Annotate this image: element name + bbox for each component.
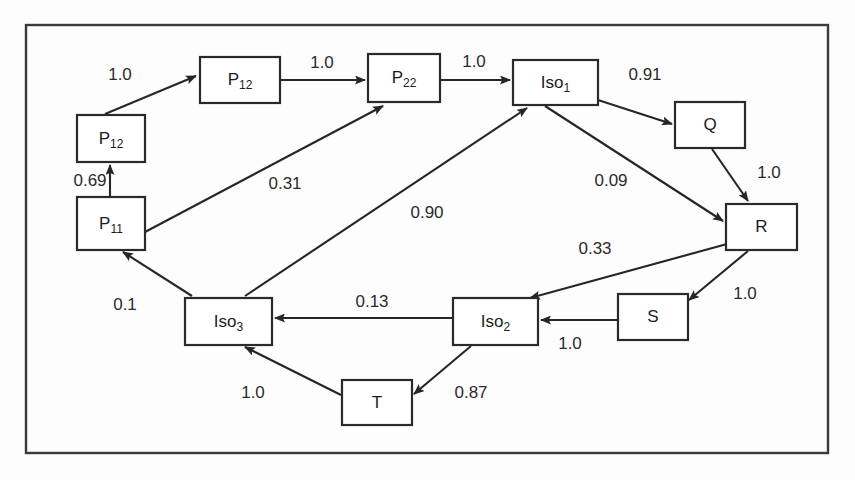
node-label: S [647, 307, 658, 326]
node-label: R [755, 217, 767, 236]
edge-p11-to-p22 [145, 106, 383, 232]
edge-weight-label: 0.90 [410, 203, 443, 222]
edge-weight-label: 0.33 [578, 239, 611, 258]
nodes-layer: P12P12P11P22Iso1QRSIso2Iso3T [77, 54, 797, 425]
node-r[interactable]: R [726, 204, 797, 250]
node-label: T [372, 393, 382, 412]
node-iso3[interactable]: Iso3 [185, 298, 272, 345]
edge-weight-label: 1.0 [757, 163, 781, 182]
node-p12_top[interactable]: P12 [200, 57, 280, 103]
edge-weight-label: 0.09 [594, 171, 627, 190]
edge-iso3-to-iso1 [245, 108, 527, 296]
diagram-canvas: P12P12P11P22Iso1QRSIso2Iso3T 1.01.01.00.… [0, 0, 855, 480]
node-q[interactable]: Q [675, 102, 745, 148]
edge-r-to-iso2 [530, 244, 727, 298]
node-p11[interactable]: P11 [77, 197, 145, 250]
edge-weight-label: 0.13 [355, 292, 388, 311]
edge-weight-label: 0.87 [454, 383, 487, 402]
node-label: Q [703, 115, 716, 134]
edge-weight-label: 0.91 [628, 65, 661, 84]
node-p12_left[interactable]: P12 [77, 115, 145, 162]
edge-weight-label: 1.0 [108, 65, 132, 84]
node-iso1[interactable]: Iso1 [513, 60, 598, 105]
node-t[interactable]: T [342, 380, 412, 425]
node-p22[interactable]: P22 [368, 54, 440, 102]
edge-weight-label: 0.1 [113, 295, 137, 314]
edges-layer [105, 76, 748, 395]
edge-weight-label: 1.0 [310, 53, 334, 72]
edge-q-to-r [712, 149, 748, 201]
node-s[interactable]: S [618, 294, 688, 340]
edge-weight-label: 1.0 [241, 383, 265, 402]
edge-weight-label: 1.0 [462, 52, 486, 71]
edge-weight-label: 0.69 [73, 171, 106, 190]
edge-weight-label: 1.0 [733, 284, 757, 303]
state-transition-diagram: P12P12P11P22Iso1QRSIso2Iso3T 1.01.01.00.… [0, 0, 855, 480]
node-iso2[interactable]: Iso2 [453, 298, 538, 345]
edge-weight-label: 1.0 [558, 334, 582, 353]
edge-weight-label: 0.31 [268, 174, 301, 193]
edge-iso3-to-p11 [123, 252, 192, 296]
edge-iso1-to-q [598, 100, 672, 124]
